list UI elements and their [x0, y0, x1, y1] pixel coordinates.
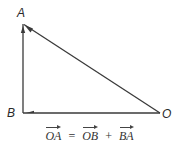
point-label-a: A	[17, 7, 25, 19]
vector-oa-term: OA	[45, 124, 61, 144]
plus-sign: +	[105, 129, 112, 143]
vector-ob-term: OB	[82, 124, 98, 144]
vector-oa-arrowhead-icon	[25, 25, 34, 33]
point-label-o: O	[162, 108, 171, 120]
vector-oa-line	[24, 25, 160, 114]
vector-equation: OA=OB+BA	[0, 124, 179, 144]
vector-ba-term: BA	[119, 124, 134, 144]
point-label-b: B	[7, 107, 15, 119]
vector-diagram: A B O OA=OB+BA	[0, 0, 179, 149]
vector-ba-arrowhead-icon	[21, 26, 25, 33]
equals-sign: =	[68, 129, 75, 143]
